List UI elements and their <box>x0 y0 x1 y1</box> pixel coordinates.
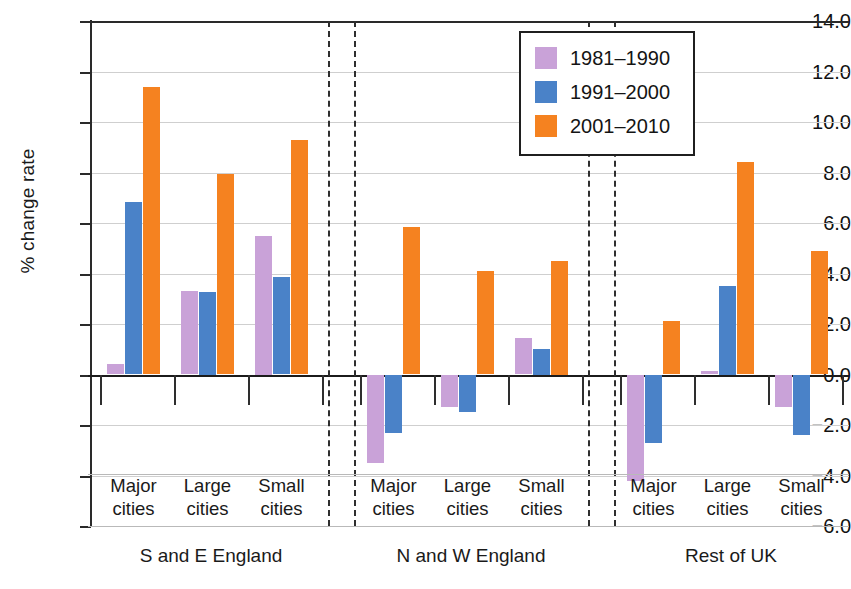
bar <box>441 375 458 408</box>
category-tick-separator <box>620 375 622 405</box>
gridline <box>92 72 849 73</box>
legend-label: 1981–1990 <box>570 47 670 69</box>
legend-swatch-icon <box>535 81 557 103</box>
category-tick-separator <box>100 375 102 405</box>
bar <box>291 140 308 375</box>
bar <box>627 375 644 481</box>
category-label: Smallcities <box>237 474 327 520</box>
group-label: N and W England <box>361 545 581 567</box>
category-tick-separator <box>582 375 584 405</box>
bar <box>775 375 792 408</box>
category-label-line2: cities <box>757 497 847 520</box>
bar <box>181 291 198 374</box>
category-tick-separator <box>322 375 324 405</box>
bar <box>367 375 384 463</box>
category-label: Smallcities <box>757 474 847 520</box>
legend-label: 2001–2010 <box>570 115 670 137</box>
category-label-line1: Small <box>237 474 327 497</box>
bar <box>533 349 550 374</box>
bar <box>551 261 568 375</box>
gridline <box>92 122 849 123</box>
bar <box>793 375 810 436</box>
category-tick-separator <box>842 375 844 405</box>
y-axis-title: % change rate <box>17 111 39 311</box>
legend-item[interactable]: 1981–1990 <box>535 45 670 71</box>
bar <box>515 338 532 375</box>
plot-top-border <box>88 21 849 23</box>
bar <box>663 321 680 374</box>
plot-area <box>92 21 849 526</box>
category-tick-separator <box>768 375 770 405</box>
legend-label: 1991–2000 <box>570 81 670 103</box>
bar <box>107 364 124 374</box>
bar <box>273 277 290 374</box>
group-label: S and E England <box>101 545 321 567</box>
gridline <box>92 425 849 426</box>
category-label-line2: cities <box>237 497 327 520</box>
bar-chart: % change rate 14.012.010.08.06.04.02.00.… <box>0 0 851 589</box>
group-separator <box>354 21 356 526</box>
category-label-line1: Small <box>497 474 587 497</box>
category-tick-separator <box>434 375 436 405</box>
category-tick-separator <box>694 375 696 405</box>
bar <box>645 375 662 443</box>
legend-item[interactable]: 1991–2000 <box>535 79 670 105</box>
category-label: Smallcities <box>497 474 587 520</box>
bar <box>217 174 234 375</box>
category-tick-separator <box>248 375 250 405</box>
gridline <box>92 223 849 224</box>
gridline <box>92 274 849 275</box>
bar <box>385 375 402 433</box>
bar <box>719 286 736 374</box>
category-label-line2: cities <box>497 497 587 520</box>
bar <box>701 371 718 375</box>
bar <box>811 251 828 375</box>
bar <box>403 227 420 375</box>
legend-swatch-icon <box>535 115 557 137</box>
gridline <box>92 173 849 174</box>
bar <box>459 375 476 413</box>
category-label-line1: Small <box>757 474 847 497</box>
label-band-line <box>88 526 849 527</box>
bar <box>199 292 216 374</box>
legend-item[interactable]: 2001–2010 <box>535 113 670 139</box>
group-label: Rest of UK <box>621 545 841 567</box>
bar <box>143 87 160 375</box>
group-separator <box>328 21 330 526</box>
category-tick-separator <box>360 375 362 405</box>
bar <box>125 202 142 375</box>
legend-swatch-icon <box>535 47 557 69</box>
legend: 1981–19901991–20002001–2010 <box>519 31 695 156</box>
category-tick-separator <box>174 375 176 405</box>
bar <box>737 162 754 374</box>
bar <box>477 271 494 375</box>
category-tick-separator <box>508 375 510 405</box>
bar <box>255 236 272 375</box>
